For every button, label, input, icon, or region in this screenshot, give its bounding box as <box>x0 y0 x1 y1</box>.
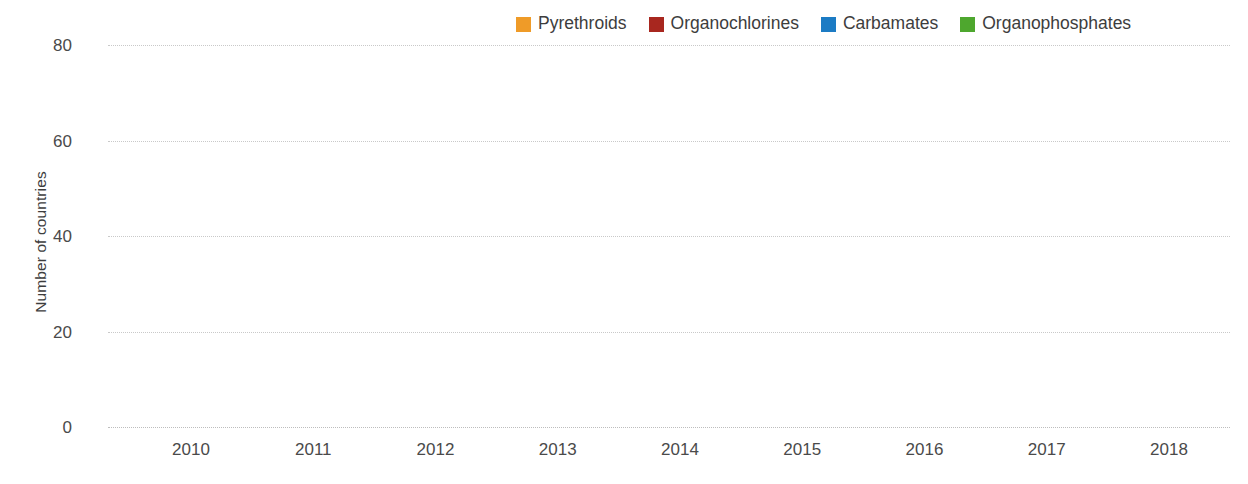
legend-label: Pyrethroids <box>538 15 627 33</box>
y-axis-tick-label: 0 <box>63 418 72 438</box>
bars-container: 201020112012201320142015201620172018 <box>130 45 1230 427</box>
x-axis-tick-label: 2010 <box>172 440 210 460</box>
legend-swatch-icon <box>516 17 531 32</box>
legend-item[interactable]: Pyrethroids <box>516 15 627 33</box>
bar-group[interactable]: 2016 <box>864 45 986 427</box>
x-axis-tick-label: 2015 <box>783 440 821 460</box>
legend-label: Organophosphates <box>982 15 1131 33</box>
legend-label: Carbamates <box>843 15 938 33</box>
legend-swatch-icon <box>649 17 664 32</box>
y-axis-tick-label: 20 <box>53 323 72 343</box>
y-axis-tick-label: 40 <box>53 227 72 247</box>
x-axis-tick-label: 2017 <box>1028 440 1066 460</box>
legend-swatch-icon <box>821 17 836 32</box>
bar-group[interactable]: 2011 <box>252 45 374 427</box>
bar-group[interactable]: 2017 <box>986 45 1108 427</box>
legend-label: Organochlorines <box>671 15 799 33</box>
chart-legend: PyrethroidsOrganochlorinesCarbamatesOrga… <box>516 12 1131 36</box>
y-axis-title: Number of countries <box>26 0 56 484</box>
x-axis-tick-label: 2014 <box>661 440 699 460</box>
legend-item[interactable]: Organophosphates <box>960 15 1131 33</box>
x-axis-tick-label: 2018 <box>1150 440 1188 460</box>
x-axis-tick-label: 2012 <box>417 440 455 460</box>
legend-item[interactable]: Carbamates <box>821 15 938 33</box>
bar-group[interactable]: 2015 <box>741 45 863 427</box>
bar-group[interactable]: 2010 <box>130 45 252 427</box>
x-axis-tick-label: 2013 <box>539 440 577 460</box>
stacked-bar-chart: PyrethroidsOrganochlorinesCarbamatesOrga… <box>0 0 1248 484</box>
bar-group[interactable]: 2012 <box>375 45 497 427</box>
legend-item[interactable]: Organochlorines <box>649 15 799 33</box>
y-axis-tick-label: 60 <box>53 132 72 152</box>
legend-swatch-icon <box>960 17 975 32</box>
gridline: 0 <box>108 427 1230 428</box>
bar-group[interactable]: 2018 <box>1108 45 1230 427</box>
x-axis-tick-label: 2016 <box>906 440 944 460</box>
plot-area: 020406080 201020112012201320142015201620… <box>130 45 1230 427</box>
bar-group[interactable]: 2014 <box>619 45 741 427</box>
y-axis-tick-label: 80 <box>53 36 72 56</box>
x-axis-tick-label: 2011 <box>295 440 332 460</box>
bar-group[interactable]: 2013 <box>497 45 619 427</box>
